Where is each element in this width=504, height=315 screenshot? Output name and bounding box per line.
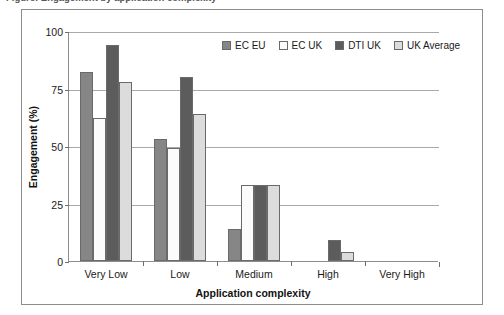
x-axis-label: Application complexity: [68, 287, 438, 299]
bar[interactable]: [106, 45, 119, 261]
y-tick-label: 100: [45, 26, 63, 38]
bar[interactable]: [193, 114, 206, 261]
x-tick-mark: [291, 261, 292, 266]
legend-label: EC EU: [235, 40, 266, 51]
bar-group: Very High: [365, 31, 439, 261]
legend-item[interactable]: DTI UK: [335, 40, 381, 51]
caption-remnant-text: Figure: Engagement by application comple…: [6, 0, 217, 3]
bar[interactable]: [167, 148, 180, 261]
x-tick-label: High: [317, 268, 339, 280]
bar-group: Low: [143, 31, 217, 261]
legend-swatch-icon: [222, 41, 231, 50]
caption-remnant: Figure: Engagement by application comple…: [0, 0, 504, 7]
legend-item[interactable]: UK Average: [394, 40, 460, 51]
bar-group-bars: [365, 31, 439, 261]
y-axis-label: Engagement (%): [27, 32, 41, 262]
bar[interactable]: [267, 185, 280, 261]
x-tick-mark: [439, 262, 440, 267]
chart-legend: EC EUEC UKDTI UKUK Average: [222, 40, 460, 51]
legend-swatch-icon: [279, 41, 288, 50]
bar[interactable]: [180, 77, 193, 261]
bar-group-bars: [291, 31, 365, 261]
legend-item[interactable]: EC UK: [279, 40, 323, 51]
x-tick-mark: [217, 261, 218, 266]
bar[interactable]: [328, 240, 341, 261]
legend-item[interactable]: EC EU: [222, 40, 266, 51]
legend-swatch-icon: [394, 41, 403, 50]
bar-group: Very Low: [69, 31, 143, 261]
bar-group-bars: [143, 31, 217, 261]
x-tick-mark: [143, 261, 144, 266]
bar[interactable]: [341, 252, 354, 261]
legend-swatch-icon: [335, 41, 344, 50]
plot-area: 0255075100Very LowLowMediumHighVery High: [68, 32, 438, 262]
bar[interactable]: [119, 82, 132, 261]
bar[interactable]: [228, 229, 241, 261]
bar[interactable]: [241, 185, 254, 261]
y-tick-label: 75: [51, 84, 63, 96]
bar[interactable]: [154, 139, 167, 261]
y-tick-mark: [65, 262, 69, 263]
legend-label: UK Average: [407, 40, 460, 51]
x-tick-label: Very High: [379, 268, 425, 280]
bar[interactable]: [80, 72, 93, 261]
bar-group: High: [291, 31, 365, 261]
bar-group: Medium: [217, 31, 291, 261]
bar[interactable]: [254, 185, 267, 261]
bar-group-bars: [217, 31, 291, 261]
legend-label: DTI UK: [348, 40, 381, 51]
x-tick-label: Very Low: [84, 268, 127, 280]
bar[interactable]: [93, 118, 106, 261]
bar-group-bars: [69, 31, 143, 261]
y-tick-label: 0: [57, 256, 63, 268]
legend-label: EC UK: [292, 40, 323, 51]
x-tick-label: Low: [170, 268, 189, 280]
x-tick-mark: [365, 261, 366, 266]
x-tick-label: Medium: [235, 268, 272, 280]
figure-container: Figure: Engagement by application comple…: [0, 0, 504, 315]
y-tick-label: 25: [51, 199, 63, 211]
y-tick-label: 50: [51, 141, 63, 153]
